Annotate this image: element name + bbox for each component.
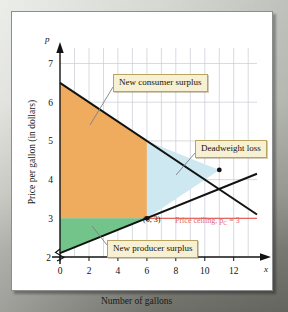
annotation-price-ceiling: Price ceiling, pC = 3	[175, 216, 240, 226]
x-tick-8: 8	[173, 266, 178, 276]
y-axis-title: Price per gallon (in dollars)	[27, 96, 37, 208]
plot-area: 2 3 4 5 6 7	[12, 12, 274, 292]
x-axis-title: Number of gallons	[101, 296, 172, 306]
annotation-point-6-3: (6, 3)	[143, 215, 160, 224]
x-tick-2: 2	[87, 266, 92, 276]
x-ticks: 0 2 4 6 8 10 12	[58, 257, 239, 276]
ceiling-text-suffix: = 3	[227, 216, 240, 225]
label-deadweight-loss: Deadweight loss	[195, 140, 267, 158]
y-tick-7: 7	[48, 59, 53, 69]
x-tick-0: 0	[58, 266, 63, 276]
label-new-consumer-surplus: New consumer surplus	[113, 74, 208, 92]
y-tick-5: 5	[48, 136, 53, 146]
y-axis-variable-label: p	[45, 34, 50, 44]
x-tick-12: 12	[229, 266, 239, 276]
figure-root: 2 3 4 5 6 7	[0, 0, 288, 312]
x-tick-10: 10	[200, 266, 210, 276]
y-tick-6: 6	[48, 98, 53, 108]
x-axis-variable-label: x	[264, 264, 268, 274]
point-equilibrium	[217, 168, 222, 173]
y-tick-3: 3	[48, 214, 53, 224]
y-tick-2: 2	[46, 253, 51, 263]
label-new-producer-surplus: New producer surplus	[107, 240, 198, 258]
y-tick-4: 4	[48, 175, 53, 185]
shaded-regions	[60, 83, 219, 253]
figure-card: 2 3 4 5 6 7	[11, 11, 273, 291]
x-tick-4: 4	[116, 266, 121, 276]
y-ticks: 2 3 4 5 6 7	[46, 59, 53, 263]
ceiling-text-prefix: Price ceiling, p	[175, 216, 223, 225]
x-tick-6: 6	[145, 266, 150, 276]
